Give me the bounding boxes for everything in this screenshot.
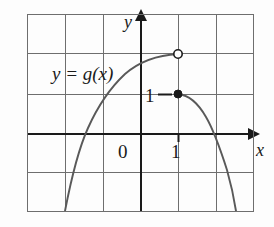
open-circle-marker [174,50,182,58]
function-graph-figure: y = g(x) y x 0 1 1 [0,0,274,227]
y-tick-1-label: 1 [145,85,155,106]
origin-label: 0 [118,141,128,162]
graph-svg: y = g(x) y x 0 1 1 [0,0,274,227]
x-axis-label: x [255,140,264,160]
function-label: y = g(x) [50,63,113,85]
closed-dot-marker [174,90,182,98]
x-tick-1-label: 1 [171,141,181,162]
